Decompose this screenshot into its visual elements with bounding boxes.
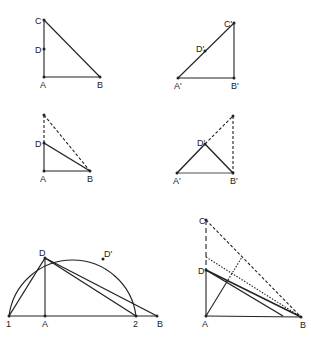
label-p3-d: D [35,139,42,149]
panel-3-triangle-abd [44,115,90,171]
label-p4-b: B' [230,176,238,186]
label-p6-c: C [199,216,206,226]
label-p6-d: D [198,266,205,276]
label-p4-a: A' [173,176,181,186]
label-p1-c: C [35,16,42,26]
label-p5-1: 1 [6,319,11,329]
label-p2-a: A' [174,81,182,91]
label-p5-d: D [39,248,46,258]
label-p2-c: C' [224,19,232,29]
label-p2-d: D' [196,44,204,54]
panel-6-combined-construction [206,220,301,317]
label-p1-d: D [35,45,42,55]
label-p5-2: 2 [133,319,138,329]
panel-1-triangle-abc [44,20,100,77]
label-p5-b: B [157,319,163,329]
label-p3-b: B [87,174,93,184]
label-p1-a: A [40,80,46,90]
labels: C D A B C' D' A' B' D A B D' A' B' D D' … [6,16,306,330]
label-p6-a: A [202,319,208,329]
label-p5-dprime: D' [104,249,112,259]
label-p1-b: B [97,80,103,90]
label-p4-d: D' [197,138,205,148]
points [8,19,303,319]
geometry-diagram: C D A B C' D' A' B' D A B D' A' B' D D' … [0,0,311,341]
panel-5-semicircle-construction [9,258,157,316]
label-p5-a: A [42,319,48,329]
label-p3-a: A [40,174,46,184]
label-p2-b: B' [231,81,239,91]
label-p6-b: B [300,320,306,330]
